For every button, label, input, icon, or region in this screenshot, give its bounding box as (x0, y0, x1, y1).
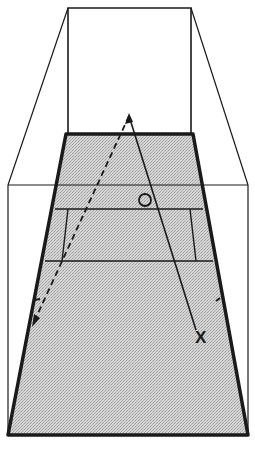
left-side-wall-edge (8, 8, 68, 185)
left-wall-marker (34, 299, 40, 300)
court-floor (8, 134, 248, 435)
right-side-wall-edge (191, 8, 248, 185)
squash-court-diagram (0, 0, 255, 455)
player-marker-label: X (195, 328, 206, 348)
